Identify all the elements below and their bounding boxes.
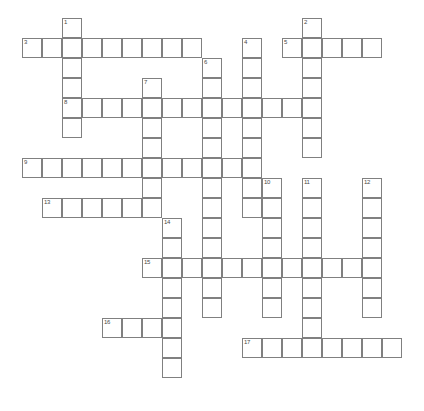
- crossword-cell[interactable]: [162, 258, 182, 278]
- crossword-cell[interactable]: [202, 158, 222, 178]
- crossword-cell[interactable]: [162, 158, 182, 178]
- crossword-cell[interactable]: [202, 238, 222, 258]
- crossword-cell-start-14[interactable]: 14: [162, 218, 182, 238]
- crossword-cell[interactable]: [282, 98, 302, 118]
- crossword-cell[interactable]: [142, 178, 162, 198]
- crossword-cell[interactable]: [142, 318, 162, 338]
- crossword-cell[interactable]: [222, 98, 242, 118]
- crossword-cell[interactable]: [302, 218, 322, 238]
- crossword-cell[interactable]: [202, 298, 222, 318]
- crossword-cell[interactable]: [342, 338, 362, 358]
- crossword-cell[interactable]: [62, 198, 82, 218]
- crossword-cell[interactable]: [302, 298, 322, 318]
- crossword-cell[interactable]: [82, 98, 102, 118]
- crossword-cell-start-5[interactable]: 5: [282, 38, 302, 58]
- crossword-cell-start-15[interactable]: 15: [142, 258, 162, 278]
- crossword-cell[interactable]: [102, 198, 122, 218]
- crossword-cell[interactable]: [322, 338, 342, 358]
- crossword-cell[interactable]: [162, 238, 182, 258]
- crossword-cell[interactable]: [242, 158, 262, 178]
- crossword-cell-start-1[interactable]: 1: [62, 18, 82, 38]
- crossword-cell[interactable]: [202, 98, 222, 118]
- crossword-cell[interactable]: [162, 358, 182, 378]
- crossword-cell[interactable]: [202, 218, 222, 238]
- crossword-cell[interactable]: [122, 38, 142, 58]
- crossword-cell[interactable]: [182, 258, 202, 278]
- crossword-cell-start-4[interactable]: 4: [242, 38, 262, 58]
- crossword-cell[interactable]: [362, 338, 382, 358]
- crossword-cell[interactable]: [42, 38, 62, 58]
- crossword-cell[interactable]: [62, 118, 82, 138]
- crossword-cell[interactable]: [202, 78, 222, 98]
- crossword-cell[interactable]: [62, 78, 82, 98]
- crossword-cell[interactable]: [162, 278, 182, 298]
- crossword-cell[interactable]: [362, 298, 382, 318]
- crossword-cell[interactable]: [122, 198, 142, 218]
- crossword-cell[interactable]: [62, 158, 82, 178]
- crossword-cell[interactable]: [62, 38, 82, 58]
- crossword-cell[interactable]: [302, 338, 322, 358]
- crossword-cell[interactable]: [262, 218, 282, 238]
- crossword-cell[interactable]: [142, 198, 162, 218]
- crossword-cell-start-16[interactable]: 16: [102, 318, 122, 338]
- crossword-cell[interactable]: [122, 318, 142, 338]
- crossword-cell[interactable]: [162, 338, 182, 358]
- crossword-cell[interactable]: [142, 118, 162, 138]
- crossword-cell-start-7[interactable]: 7: [142, 78, 162, 98]
- crossword-cell[interactable]: [362, 218, 382, 238]
- crossword-cell[interactable]: [102, 158, 122, 178]
- crossword-cell[interactable]: [302, 238, 322, 258]
- crossword-cell[interactable]: [262, 98, 282, 118]
- crossword-cell-start-8[interactable]: 8: [62, 98, 82, 118]
- crossword-cell[interactable]: [302, 278, 322, 298]
- crossword-cell[interactable]: [302, 118, 322, 138]
- crossword-cell-start-9[interactable]: 9: [22, 158, 42, 178]
- crossword-cell-start-12[interactable]: 12: [362, 178, 382, 198]
- crossword-cell[interactable]: [342, 258, 362, 278]
- crossword-cell[interactable]: [362, 238, 382, 258]
- crossword-cell[interactable]: [302, 198, 322, 218]
- crossword-cell[interactable]: [82, 198, 102, 218]
- crossword-cell[interactable]: [302, 38, 322, 58]
- crossword-cell-start-10[interactable]: 10: [262, 178, 282, 198]
- crossword-cell[interactable]: [102, 38, 122, 58]
- crossword-cell[interactable]: [142, 158, 162, 178]
- crossword-cell[interactable]: [242, 78, 262, 98]
- crossword-cell[interactable]: [222, 258, 242, 278]
- crossword-cell[interactable]: [262, 238, 282, 258]
- crossword-cell[interactable]: [182, 98, 202, 118]
- crossword-cell[interactable]: [322, 38, 342, 58]
- crossword-cell[interactable]: [202, 178, 222, 198]
- crossword-cell-start-6[interactable]: 6: [202, 58, 222, 78]
- crossword-cell[interactable]: [202, 278, 222, 298]
- crossword-cell[interactable]: [102, 98, 122, 118]
- crossword-cell[interactable]: [302, 58, 322, 78]
- crossword-cell[interactable]: [202, 198, 222, 218]
- crossword-cell[interactable]: [362, 38, 382, 58]
- crossword-cell-start-2[interactable]: 2: [302, 18, 322, 38]
- crossword-cell-start-3[interactable]: 3: [22, 38, 42, 58]
- crossword-cell[interactable]: [82, 38, 102, 58]
- crossword-cell[interactable]: [142, 138, 162, 158]
- crossword-cell-start-13[interactable]: 13: [42, 198, 62, 218]
- crossword-cell[interactable]: [202, 118, 222, 138]
- crossword-cell[interactable]: [302, 258, 322, 278]
- crossword-cell[interactable]: [282, 258, 302, 278]
- crossword-cell[interactable]: [322, 258, 342, 278]
- crossword-cell[interactable]: [182, 158, 202, 178]
- crossword-cell[interactable]: [162, 298, 182, 318]
- crossword-cell[interactable]: [202, 258, 222, 278]
- crossword-cell[interactable]: [262, 198, 282, 218]
- crossword-cell[interactable]: [262, 258, 282, 278]
- crossword-cell[interactable]: [242, 178, 262, 198]
- crossword-cell[interactable]: [262, 298, 282, 318]
- crossword-cell[interactable]: [162, 98, 182, 118]
- crossword-cell[interactable]: [302, 138, 322, 158]
- crossword-cell[interactable]: [342, 38, 362, 58]
- crossword-cell[interactable]: [122, 98, 142, 118]
- crossword-cell[interactable]: [262, 338, 282, 358]
- crossword-cell[interactable]: [262, 278, 282, 298]
- crossword-cell[interactable]: [362, 258, 382, 278]
- crossword-cell[interactable]: [142, 98, 162, 118]
- crossword-cell-start-11[interactable]: 11: [302, 178, 322, 198]
